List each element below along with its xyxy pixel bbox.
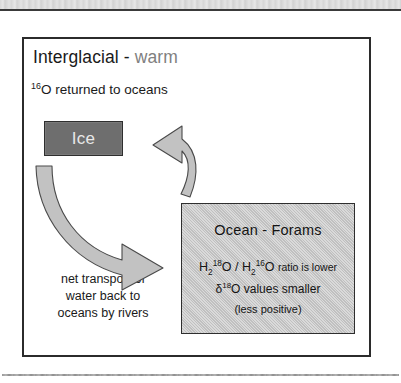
paren-note-line: (less positive) (182, 303, 354, 315)
subtitle-superscript: 16 (31, 81, 41, 91)
scan-rule-top (0, 9, 401, 11)
delta-superscript: 18 (222, 281, 231, 290)
subtitle: 16O returned to oceans (31, 82, 168, 97)
formula-divider: / (232, 260, 242, 274)
ocean-box-title: Ocean - Forams (182, 222, 354, 238)
formula-h2-sup: 16 (256, 259, 265, 268)
title-main-text: Interglacial - (33, 47, 135, 67)
formula-h1-sub: 2 (208, 268, 213, 277)
delta-o18-line: δ18O values smaller (182, 282, 354, 296)
caption-line-1: net transport of (30, 271, 176, 288)
caption-line-3: oceans by rivers (30, 305, 176, 322)
formula-tail-text: ratio is lower (278, 261, 337, 273)
formula-h1-sup: 18 (213, 259, 222, 268)
formula-h1: H (199, 260, 208, 274)
page-title: Interglacial - warm (33, 47, 178, 68)
delta-text: O values smaller (231, 282, 320, 296)
ice-reservoir-box: Ice (44, 121, 123, 156)
ocean-forams-box: Ocean - Forams H218O / H216O ratio is lo… (181, 203, 355, 334)
formula-h2-sub: 2 (251, 268, 256, 277)
isotope-ratio-formula: H218O / H216O ratio is lower (182, 260, 354, 274)
title-accent-text: warm (135, 47, 178, 67)
caption-line-2: water back to (30, 288, 176, 305)
formula-h2: H (242, 260, 251, 274)
figure-page: Interglacial - warm 16O returned to ocea… (0, 0, 401, 383)
transport-caption: net transport of water back to oceans by… (30, 271, 176, 322)
ice-box-label: Ice (72, 129, 96, 149)
formula-h1-o: O (222, 260, 232, 274)
scan-artifact-top-band (0, 0, 401, 9)
subtitle-text: O returned to oceans (41, 82, 168, 97)
scan-rule-bottom (2, 374, 399, 376)
formula-h2-o: O (265, 260, 275, 274)
